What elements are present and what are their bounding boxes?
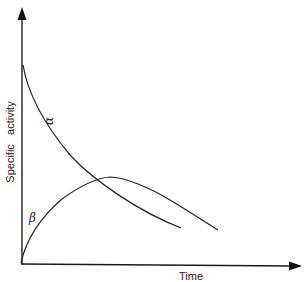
y-axis-label: Specific activity [4,101,16,183]
x-axis-arrowhead-icon [289,262,302,271]
x-axis-label: Time [179,270,203,282]
alpha-curve [23,65,181,228]
y-axis-arrowhead-icon [18,7,27,20]
beta-curve [21,177,218,263]
precursor-product-activity-diagram: α β Specific activity Time [0,0,304,282]
beta-label: β [28,211,36,225]
alpha-label: α [42,117,56,125]
x-axis [21,264,292,266]
